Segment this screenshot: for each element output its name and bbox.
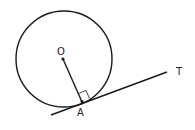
label-o: O — [57, 46, 65, 57]
tangency-point — [80, 100, 83, 103]
circle-tangent-diagram: O A T — [0, 0, 195, 130]
label-t: T — [175, 66, 183, 77]
radius-oa — [63, 59, 82, 102]
tangent-line — [51, 72, 167, 115]
label-a: A — [77, 107, 84, 118]
center-point — [61, 57, 64, 60]
